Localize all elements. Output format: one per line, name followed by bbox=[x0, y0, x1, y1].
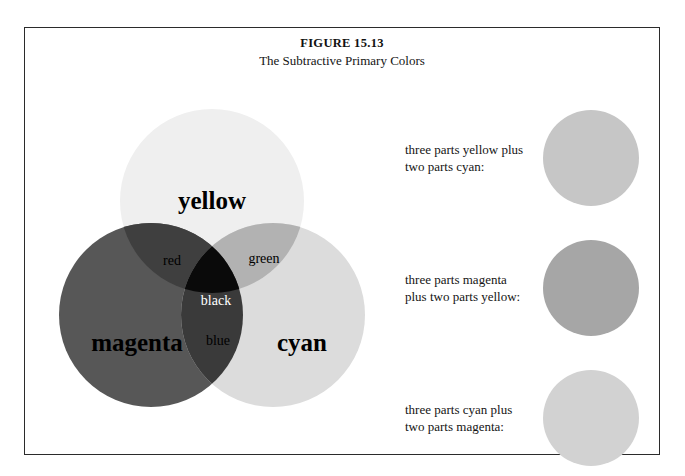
venn-label-cyan: cyan bbox=[277, 329, 327, 356]
mixture-caption: three parts cyan plus two parts magenta: bbox=[405, 401, 527, 435]
figure-frame: FIGURE 15.13 The Subtractive Primary Col… bbox=[24, 27, 660, 455]
venn-svg: yellow magenta cyan red green blue black bbox=[27, 83, 397, 453]
venn-label-yellow: yellow bbox=[178, 187, 246, 214]
figure-subtitle: The Subtractive Primary Colors bbox=[25, 53, 659, 70]
venn-label-green: green bbox=[248, 251, 279, 266]
venn-label-blue: blue bbox=[206, 333, 230, 348]
mixture-row-magenta-plus-yellow: three parts magenta plus two parts yello… bbox=[405, 236, 657, 340]
mixture-row-yellow-plus-cyan: three parts yellow plus two parts cyan: bbox=[405, 106, 657, 210]
mixture-swatch bbox=[543, 370, 639, 466]
mixture-swatch bbox=[543, 240, 639, 336]
mixture-swatch bbox=[543, 110, 639, 206]
figure-caption: FIGURE 15.13 The Subtractive Primary Col… bbox=[25, 36, 659, 70]
mixture-row-cyan-plus-magenta: three parts cyan plus two parts magenta: bbox=[405, 366, 657, 470]
mixture-caption: three parts yellow plus two parts cyan: bbox=[405, 141, 527, 175]
venn-label-red: red bbox=[163, 253, 181, 268]
mixture-caption: three parts magenta plus two parts yello… bbox=[405, 271, 527, 305]
venn-label-magenta: magenta bbox=[91, 329, 183, 356]
mixture-panel: three parts yellow plus two parts cyan: … bbox=[405, 88, 657, 448]
figure-number: FIGURE 15.13 bbox=[25, 36, 659, 52]
venn-label-black: black bbox=[201, 293, 231, 308]
venn-diagram: yellow magenta cyan red green blue black bbox=[27, 83, 397, 453]
